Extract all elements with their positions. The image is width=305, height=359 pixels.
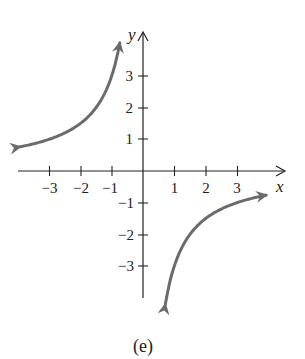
x-tick-label: 2 [202,180,210,196]
figure-caption: (e) [133,336,153,357]
y-tick-label: −2 [118,227,134,243]
y-tick-label: −1 [118,195,134,211]
curve-branch-right [165,195,266,304]
x-axis-label: x [275,177,284,196]
y-tick-label: 2 [126,100,134,116]
y-tick-label: 3 [126,68,134,84]
x-tick-label: 3 [233,180,241,196]
x-tick-label: 1 [171,180,179,196]
y-axis-label: y [126,25,136,44]
curve-branch-left [20,43,120,147]
y-tick-label: 1 [126,131,134,147]
x-tick-label: −1 [102,180,118,196]
x-tick-label: −2 [73,180,89,196]
hyperbola-graph: −3 −2 −1 1 2 3 3 2 1 −1 −2 −3 y x (e) [0,0,305,359]
y-tick-label: −3 [118,258,134,274]
x-tick-label: −3 [42,180,58,196]
